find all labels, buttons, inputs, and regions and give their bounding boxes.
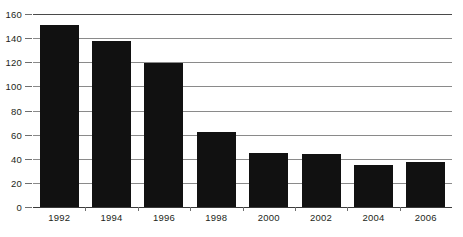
- x-axis-tick-label-1998: 1998: [205, 212, 227, 223]
- x-tick-mark: [85, 207, 86, 211]
- y-tick-mark: [25, 14, 32, 15]
- x-tick-mark: [138, 207, 139, 211]
- y-axis-tick-label: 40: [11, 153, 22, 164]
- x-axis-tick-label-2006: 2006: [415, 212, 437, 223]
- y-tick-mark: [25, 135, 32, 136]
- y-axis-tick-label: 160: [6, 9, 22, 20]
- x-axis-tick-label-2004: 2004: [362, 212, 384, 223]
- bar-1996: [144, 63, 183, 207]
- x-axis-tick-label-2002: 2002: [310, 212, 332, 223]
- x-tick-mark: [400, 207, 401, 211]
- y-tick-mark: [25, 38, 32, 39]
- x-axis-tick-label-1992: 1992: [48, 212, 70, 223]
- y-axis-tick-label: 80: [11, 105, 22, 116]
- y-tick-mark: [25, 62, 32, 63]
- y-axis-tick-label: 20: [11, 177, 22, 188]
- x-tick-mark: [243, 207, 244, 211]
- bar-2004: [354, 165, 393, 207]
- bar-1998: [197, 132, 236, 207]
- gridline: [33, 38, 452, 39]
- bar-2002: [302, 154, 341, 207]
- y-axis-tick-label: 140: [6, 33, 22, 44]
- gridline: [33, 14, 452, 15]
- x-axis-tick-label-1994: 1994: [101, 212, 123, 223]
- x-tick-mark: [190, 207, 191, 211]
- y-tick-mark: [25, 183, 32, 184]
- y-tick-mark: [25, 207, 32, 208]
- y-axis-tick-label: 120: [6, 57, 22, 68]
- y-axis-tick-label: 60: [11, 129, 22, 140]
- bar-2000: [249, 153, 288, 207]
- bar-1994: [92, 41, 131, 207]
- y-tick-mark: [25, 159, 32, 160]
- bar-1992: [40, 25, 79, 207]
- bar-2006: [406, 162, 445, 207]
- x-tick-mark: [295, 207, 296, 211]
- plot-area: 020406080100120140160: [33, 14, 452, 207]
- y-axis-tick-label: 100: [6, 81, 22, 92]
- x-axis-tick-label-1996: 1996: [153, 212, 175, 223]
- bar-chart: 020406080100120140160 199219941996199820…: [0, 0, 463, 237]
- y-tick-mark: [25, 111, 32, 112]
- x-tick-mark: [347, 207, 348, 211]
- y-axis-tick-label: 0: [17, 202, 22, 213]
- y-tick-mark: [25, 86, 32, 87]
- x-axis-labels: 19921994199619982000200220042006: [33, 212, 452, 234]
- x-axis-tick-label-2000: 2000: [258, 212, 280, 223]
